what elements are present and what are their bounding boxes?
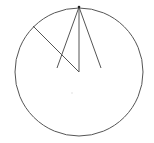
line-group xyxy=(33,7,101,72)
line-1 xyxy=(57,7,79,68)
apex-point xyxy=(78,6,81,9)
line-2 xyxy=(79,7,101,68)
faint-center-dot xyxy=(71,92,73,94)
line-3 xyxy=(33,26,79,72)
circle-diagram xyxy=(0,0,154,143)
